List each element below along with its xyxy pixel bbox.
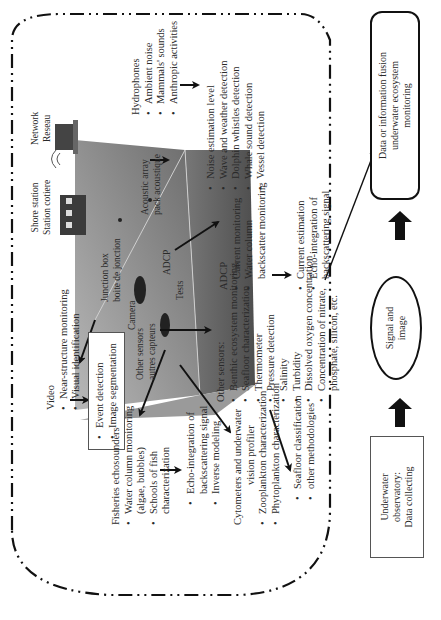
hydrophones-result-item: Whale sound detection [243,61,256,190]
observatory-line-2: observatory: [391,472,403,522]
video-item: Near-structure monitoring [58,289,71,410]
other-sensors-item: Thermometer [253,256,266,402]
other-sensors-item: Seafloor characterization [240,256,253,402]
observatory-data-collecting-box: Underwater observatory: Data collecting [370,436,424,558]
observatory-line-1: Underwater [379,473,391,520]
other-sensors-item: Turbidity [291,256,304,402]
other-sensors-item: Concentration of nitrate, phosphate, sil… [316,256,341,402]
fisheries-result-item: Echo-integration of backscattering signa… [185,406,210,505]
other-sensors-title: Other sensors: [215,256,228,402]
signal-line-1: Signal and [384,307,396,350]
signal-and-image-ellipse: Signal and image [370,276,422,380]
fusion-line-2: underwater ecosystem [389,61,401,150]
diagram-canvas: Underwater observatory: Data collecting … [0,0,441,620]
fusion-line-1: Data or information fusion [377,52,389,159]
video-result-item: Event detection [94,343,107,439]
fisheries-results: Echo-integration of backscattering signa… [185,406,223,505]
data-fusion-box: Data or information fusion underwater ec… [370,11,420,200]
hydrophones-item: Anthropic activities [168,21,181,115]
seafloor-result-item: Seafloor classification [292,395,305,500]
seafloor-result-item: other methodologies [305,395,318,500]
other-sensors-item: Dissolved oxygen concentration [303,256,316,402]
seafloor-results: Seafloor classification other methodolog… [292,395,317,500]
adcp-image-label: ADCP [162,250,174,275]
fisheries-item: Water column monitoring (algae, bubbles) [123,406,148,525]
cytometers-title-2: vision profiler [245,383,258,525]
other-sensors-image-label: Other sensors autres capteurs [135,323,158,380]
hydrophones-result-item: Vessel detection [255,61,268,190]
fisheries-item: Schools of fish characterization [148,406,173,525]
video-section: Video Near-structure monitoring Visual i… [45,289,83,410]
other-sensors-item: Pressure detection [265,256,278,402]
shore-station-label: Shore station Station cotiere [30,180,53,235]
cytometers-item: Phytoplankton characterization [270,383,283,525]
hydrophones-result-item: Dolphin whistles detection [230,61,243,190]
other-sensors-item: Benthic ecosystem monitoring [228,256,241,402]
cytometers-item: Zooplankton characterization [257,383,270,525]
hydrophones-result-item: Noise estimation level [205,61,218,190]
acoustic-array-label: Acoustic array pack acoustique [140,154,163,215]
fisheries-section: Fisheries echosounders Water column moni… [110,406,173,525]
cytometers-section: Cytometers and underwater vision profile… [232,383,282,525]
video-item: Visual identification [70,289,83,410]
hydrophones-title: Hydrophones [130,21,143,115]
cytometers-title-1: Cytometers and underwater [232,383,245,525]
hydrophones-results: Noise estimation level Wave and weather … [205,61,268,190]
observatory-line-3: Data collecting [403,467,415,528]
hydrophones-item: Ambient noise [143,21,156,115]
fusion-line-3: monitoring [401,83,413,127]
other-sensors-section: Other sensors: Benthic ecosystem monitor… [215,256,341,402]
hydrophones-result-item: Wave and weather detection [218,61,231,190]
tests-label: Tests [175,281,187,300]
hydrophones-section: Hydrophones Ambient noise Mammals' sound… [130,21,180,115]
other-sensors-item: Salinity [278,256,291,402]
network-label: Network Reseau [30,112,53,145]
fisheries-result-item: Inverse modeling [210,406,223,505]
hydrophones-item: Mammals' sounds [155,21,168,115]
video-title: Video [45,289,58,410]
fisheries-title: Fisheries echosounders [110,406,123,525]
signal-line-2: image [396,316,408,340]
junction-box-label: Junction box boite de jonction [100,238,123,302]
